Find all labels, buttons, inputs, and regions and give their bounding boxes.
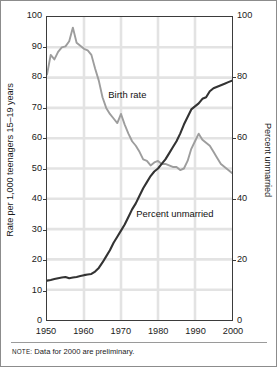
y-axis-right-title: Percent unmarried: [259, 1, 277, 319]
series-label-birth-rate: Birth rate: [108, 89, 146, 100]
y-axis-right-tickmark: [233, 77, 236, 78]
x-axis-tick-1990: 1990: [179, 327, 213, 336]
x-axis-tick-2000: 2000: [216, 327, 250, 336]
y-axis-right-tick-20: 20: [237, 255, 261, 264]
y-axis-left-tick-90: 90: [18, 42, 42, 51]
y-axis-right-tick-40: 40: [237, 194, 261, 203]
chart-note: NOTE: Data for 2000 are preliminary.: [12, 347, 134, 356]
chart-figure: Rate per 1,000 teenagers 15–19 years Per…: [0, 0, 277, 367]
x-axis-tick-1950: 1950: [29, 327, 63, 336]
y-axis-right-tickmark: [233, 138, 236, 139]
y-axis-left-title: Rate per 1,000 teenagers 15–19 years: [1, 1, 19, 319]
y-axis-left-tickmark: [43, 169, 46, 170]
note-text: Data for 2000 are preliminary.: [32, 347, 134, 356]
y-axis-left-tickmark: [43, 47, 46, 48]
y-axis-left-tick-70: 70: [18, 103, 42, 112]
y-axis-left-title-text: Rate per 1,000 teenagers 15–19 years: [5, 83, 15, 237]
y-axis-left-tick-40: 40: [18, 194, 42, 203]
y-axis-left-tick-10: 10: [18, 286, 42, 295]
data-series-layer: [47, 17, 232, 320]
y-axis-left-tickmark: [43, 108, 46, 109]
y-axis-left-tick-100: 100: [18, 11, 42, 20]
plot-area: [46, 16, 233, 321]
y-axis-right-tickmark: [233, 199, 236, 200]
y-axis-right-tick-0: 0: [237, 316, 261, 325]
x-axis-tick-1980: 1980: [141, 327, 175, 336]
series-label-percent-unmarried: Percent unmarried: [136, 208, 213, 219]
y-axis-left-tick-30: 30: [18, 225, 42, 234]
y-axis-right-tick-100: 100: [237, 11, 261, 20]
y-axis-left-tick-0: 0: [18, 316, 42, 325]
x-axis-tick-1970: 1970: [104, 327, 138, 336]
y-axis-left-tickmark: [43, 138, 46, 139]
y-axis-left-tickmark: [43, 199, 46, 200]
y-axis-left-tick-80: 80: [18, 72, 42, 81]
y-axis-left-tick-60: 60: [18, 133, 42, 142]
y-axis-right-tick-60: 60: [237, 133, 261, 142]
y-axis-left-tickmark: [43, 230, 46, 231]
y-axis-right-title-text: Percent unmarried: [263, 123, 273, 197]
y-axis-left-tick-50: 50: [18, 164, 42, 173]
y-axis-right-tickmark: [233, 260, 236, 261]
y-axis-left-tick-20: 20: [18, 255, 42, 264]
y-axis-left-tickmark: [43, 77, 46, 78]
y-axis-left-tickmark: [43, 260, 46, 261]
y-axis-left-tickmark: [43, 291, 46, 292]
x-axis-tick-1960: 1960: [66, 327, 100, 336]
note-divider: [11, 342, 267, 343]
y-axis-right-tick-80: 80: [237, 72, 261, 81]
note-kicker: NOTE:: [12, 348, 32, 355]
